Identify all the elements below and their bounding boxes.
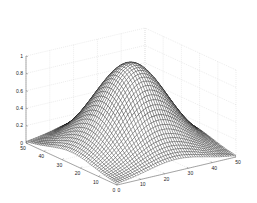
y-tick-label: 20	[75, 170, 81, 176]
z-tick-label: 0.6	[16, 88, 23, 94]
x-tick-label: 40	[211, 165, 217, 171]
x-tick-label: 30	[188, 170, 194, 176]
y-tick-label: 50	[20, 145, 26, 151]
y-tick-label: 40	[38, 153, 44, 159]
y-tick-label: 30	[57, 162, 63, 168]
x-tick-label: 20	[164, 176, 170, 182]
y-tick-label: 10	[93, 179, 99, 185]
z-tick-label: 0.4	[16, 105, 23, 111]
z-tick-label: 0.2	[16, 122, 23, 128]
x-tick-label: 10	[140, 181, 146, 187]
x-tick-label: 0	[118, 187, 121, 193]
x-tick-label: 50	[235, 159, 241, 165]
z-tick-label: 0.8	[16, 70, 23, 76]
z-tick-label: 1	[20, 53, 23, 59]
y-tick-label: 0	[113, 187, 116, 193]
surface-plot: 00.20.40.60.81 01020304050 01020304050	[0, 0, 257, 203]
